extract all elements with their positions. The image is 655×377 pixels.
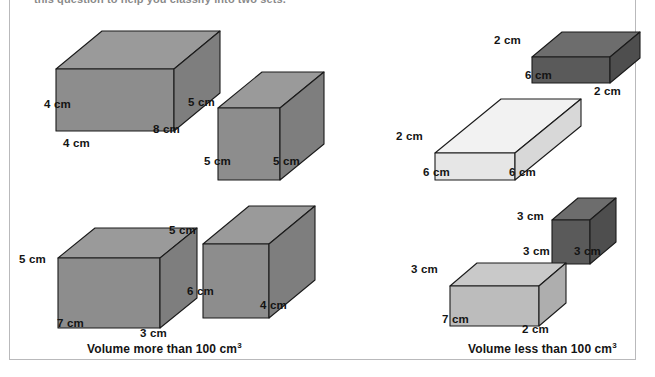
box-7x3x5-dimension-label: 3 cm: [140, 327, 167, 339]
caption-exponent: 3: [237, 341, 242, 350]
box-5x5x5-dimension-label: 5 cm: [273, 155, 300, 167]
volume-sorting-figure: this question to help you classify into …: [0, 0, 655, 377]
cuboid-4-4-8: 4 cm4 cm8 cm: [30, 14, 205, 134]
box-7x2x3-dimension-label: 7 cm: [442, 313, 469, 325]
box-6x4x5-dimension-label: 4 cm: [260, 299, 287, 311]
box-7x3x5-shape: [30, 200, 200, 340]
caption-more-than-100: Volume more than 100 cm3: [87, 341, 242, 356]
box-5x5x5-front-face: [218, 108, 280, 180]
cuboid-7-2-3: 3 cm7 cm2 cm: [420, 226, 570, 336]
box-6x4x5-shape: [178, 182, 328, 327]
box-6x4x5-dimension-label: 6 cm: [187, 285, 214, 297]
caption-less-than-100: Volume less than 100 cm3: [468, 341, 617, 356]
box-6x6x2-dimension-label: 6 cm: [423, 166, 450, 178]
page-frame-left-rule: [9, 0, 10, 360]
box-6x6x2-shape: [410, 80, 590, 175]
box-7x3x5-dimension-label: 5 cm: [19, 253, 46, 265]
page-frame-bottom-rule: [9, 359, 636, 360]
caption-text: Volume less than 100 cm: [468, 342, 612, 356]
caption-exponent: 3: [612, 341, 617, 350]
box-7x2x3-dimension-label: 3 cm: [411, 263, 438, 275]
box-5x5x5-dimension-label: 5 cm: [188, 96, 215, 108]
box-6x6x2-dimension-label: 6 cm: [509, 166, 536, 178]
box-5x5x5-dimension-label: 5 cm: [204, 155, 231, 167]
cuboid-6-6-2: 2 cm6 cm6 cm: [410, 80, 590, 175]
box-7x2x3-dimension-label: 2 cm: [522, 323, 549, 335]
cuboid-7-3-5: 5 cm7 cm3 cm: [30, 200, 200, 340]
cuboid-6-4-5: 5 cm6 cm4 cm: [178, 182, 328, 327]
box-6x2x2-dimension-label: 2 cm: [594, 85, 621, 97]
box-4x4x8-shape: [30, 14, 205, 134]
box-3x3x3-dimension-label: 3 cm: [517, 210, 544, 222]
box-3x3x3-dimension-label: 3 cm: [574, 245, 601, 257]
caption-text: Volume more than 100 cm: [87, 342, 237, 356]
box-7x3x5-dimension-label: 7 cm: [57, 317, 84, 329]
box-4x4x8-front-face: [56, 69, 174, 131]
box-6x2x2-dimension-label: 2 cm: [494, 34, 521, 46]
cube-5-5-5: 5 cm5 cm5 cm: [194, 46, 329, 176]
box-6x6x2-dimension-label: 2 cm: [396, 130, 423, 142]
box-6x4x5-dimension-label: 5 cm: [169, 224, 196, 236]
box-4x4x8-dimension-label: 4 cm: [44, 98, 71, 110]
clipped-heading-text: this question to help you classify into …: [34, 0, 454, 5]
box-4x4x8-dimension-label: 8 cm: [153, 123, 180, 135]
box-4x4x8-dimension-label: 4 cm: [63, 137, 90, 149]
